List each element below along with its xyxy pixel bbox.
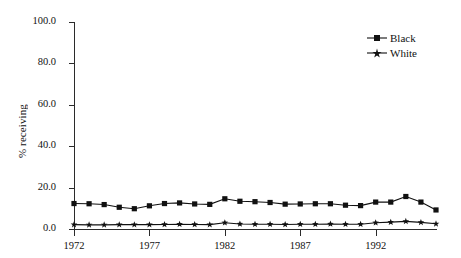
- data-point-star: [191, 221, 198, 227]
- data-point-square: [283, 202, 288, 207]
- data-point-square: [328, 201, 333, 206]
- y-tick-label: 0.0: [43, 222, 56, 233]
- legend-label-black: Black: [390, 32, 416, 44]
- data-point-square: [267, 200, 272, 205]
- data-point-star: [372, 219, 379, 225]
- chart-figure: % receiving 0.020.040.060.080.0100.0 197…: [0, 0, 461, 258]
- y-tick-label: 40.0: [38, 139, 56, 150]
- x-tick: [376, 230, 377, 236]
- data-point-square: [313, 201, 318, 206]
- data-point-star: [267, 221, 274, 227]
- square-marker-icon: [366, 32, 388, 44]
- data-point-star: [131, 221, 138, 227]
- data-point-square: [237, 199, 242, 204]
- data-point-star: [86, 221, 93, 227]
- data-point-star: [282, 221, 289, 227]
- data-point-square: [117, 205, 122, 210]
- data-point-square: [102, 202, 107, 207]
- data-point-star: [297, 221, 304, 227]
- data-point-square: [207, 202, 212, 207]
- y-tick-label: 20.0: [38, 181, 56, 192]
- x-tick-label: 1977: [139, 240, 160, 251]
- data-point-star: [418, 219, 425, 225]
- data-point-star: [342, 221, 349, 227]
- data-point-square: [418, 199, 423, 204]
- data-point-square: [433, 207, 438, 212]
- data-point-square: [162, 201, 167, 206]
- data-point-star: [116, 221, 123, 227]
- legend-item-white: White: [366, 45, 432, 60]
- data-point-square: [147, 203, 152, 208]
- data-point-square: [132, 206, 137, 211]
- data-point-star: [312, 221, 319, 227]
- data-point-star: [222, 219, 229, 225]
- data-point-square: [252, 199, 257, 204]
- y-tick-label: 100.0: [32, 15, 56, 26]
- x-tick: [149, 230, 150, 236]
- data-point-square: [358, 203, 363, 208]
- data-point-star: [327, 221, 334, 227]
- data-point-star: [357, 221, 364, 227]
- data-point-square: [388, 199, 393, 204]
- series-white: [71, 218, 440, 228]
- data-point-square: [373, 199, 378, 204]
- x-tick-label: 1972: [64, 240, 85, 251]
- y-tick-label: 60.0: [38, 98, 56, 109]
- data-point-star: [206, 221, 213, 227]
- y-axis-title: % receiving: [14, 96, 30, 166]
- chart-legend: Black White: [366, 28, 432, 62]
- x-tick-label: 1987: [290, 240, 311, 251]
- data-point-star: [237, 221, 244, 227]
- data-point-square: [86, 201, 91, 206]
- x-tick: [74, 230, 75, 236]
- data-point-square: [343, 203, 348, 208]
- data-point-square: [222, 196, 227, 201]
- data-point-star: [101, 221, 108, 227]
- x-tick: [300, 230, 301, 236]
- star-marker-icon: [366, 47, 388, 59]
- data-point-star: [146, 221, 153, 227]
- data-point-square: [177, 200, 182, 205]
- legend-item-black: Black: [366, 30, 432, 45]
- legend-label-white: White: [390, 47, 417, 59]
- data-point-star: [71, 221, 78, 227]
- data-point-square: [192, 201, 197, 206]
- x-tick-label: 1982: [214, 240, 235, 251]
- series-black: [71, 194, 438, 213]
- data-point-star: [161, 221, 168, 227]
- x-tick: [225, 230, 226, 236]
- y-tick-label: 80.0: [38, 56, 56, 67]
- data-point-star: [176, 221, 183, 227]
- data-point-star: [433, 220, 440, 226]
- data-point-star: [387, 219, 394, 225]
- data-point-square: [403, 194, 408, 199]
- x-tick-label: 1992: [365, 240, 386, 251]
- data-point-star: [252, 221, 259, 227]
- data-point-star: [403, 218, 410, 224]
- data-point-square: [71, 201, 76, 206]
- data-point-square: [298, 201, 303, 206]
